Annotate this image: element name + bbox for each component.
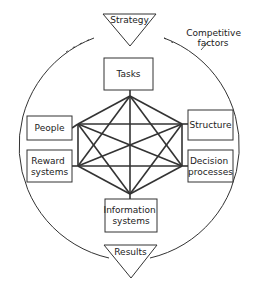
people-box: People xyxy=(27,116,72,140)
results-node: Results xyxy=(104,245,157,278)
information-systems-box: Information systems xyxy=(104,199,159,232)
tasks-box: Tasks xyxy=(104,58,153,90)
results-label: Results xyxy=(114,247,147,257)
strategy-label: Strategy xyxy=(110,15,149,25)
people-label: People xyxy=(35,123,65,133)
decision-processes-label: Decision processes xyxy=(188,156,233,177)
reward-systems-box: Reward systems xyxy=(27,150,72,182)
structure-box: Structure xyxy=(188,110,233,140)
reward-systems-label: Reward systems xyxy=(31,156,69,177)
tasks-label: Tasks xyxy=(115,69,140,79)
interconnection-network xyxy=(72,90,188,199)
competitive-factors-label: Competitive factors xyxy=(186,28,244,48)
strategy-node: Strategy xyxy=(103,14,156,46)
organization-model-diagram: Strategy Competitive factors xyxy=(0,0,256,294)
decision-processes-box: Decision processes xyxy=(188,150,233,182)
structure-label: Structure xyxy=(190,120,232,130)
